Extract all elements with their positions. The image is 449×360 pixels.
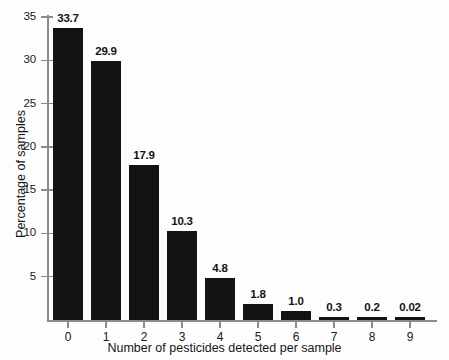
bar [167,231,197,320]
y-axis-tick [41,189,53,190]
y-axis-tick [41,146,53,147]
x-axis-tick [67,321,68,328]
bar [129,165,159,320]
y-axis-tick [41,60,53,61]
x-axis-tick [409,321,410,328]
y-axis-title: Percentage of samples [14,79,28,269]
bar-value-label: 33.7 [45,12,91,24]
bar [243,304,273,320]
chart-page: 5101520253035 0123456789 33.729.917.910.… [0,0,449,360]
bar-value-label: 10.3 [159,215,205,227]
y-axis-tick-label: 35 [10,10,36,22]
bar-value-label: 29.9 [83,45,129,57]
bar [91,61,121,320]
y-axis-tick [41,276,53,277]
bar [205,278,235,320]
bar [281,311,311,320]
bar-value-label: 17.9 [121,149,167,161]
x-axis-tick [257,321,258,328]
x-axis-tick [143,321,144,328]
y-axis-tick-label: 30 [10,53,36,65]
x-axis-tick [371,321,372,328]
y-axis-tick [41,233,53,234]
bar-chart-plot-area: 5101520253035 0123456789 33.729.917.910.… [0,0,449,360]
x-axis-title: Number of pesticides detected per sample [0,341,449,355]
bar-value-label: 0.02 [387,301,433,313]
bar [357,317,387,320]
x-axis-tick [295,321,296,328]
bar [319,317,349,320]
bar-value-label: 4.8 [197,262,243,274]
bar [395,317,425,320]
x-axis-tick [105,321,106,328]
y-axis-tick-label: 5 [10,270,36,282]
x-axis-tick [219,321,220,328]
y-axis-tick [41,103,53,104]
x-axis-tick [333,321,334,328]
x-axis-tick [181,321,182,328]
bar [53,28,83,320]
